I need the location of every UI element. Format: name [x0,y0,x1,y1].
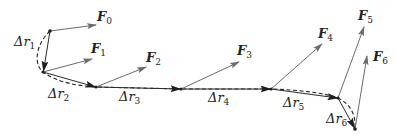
force-labels: F0 F1 F2 F3 F4 F5 F6 [90,8,388,67]
displacement-dr5 [271,89,338,98]
point-p3 [179,87,182,90]
force-f4 [271,44,322,89]
force-f5 [338,27,364,98]
force-f0 [50,25,96,31]
point-p1 [41,70,44,73]
force-f2 [96,67,146,87]
displacement-dr2 [43,72,96,87]
displacement-labels: Δr1 Δr2 Δr3 Δr4 Δr5 Δr6 [13,34,348,128]
label-dr5: Δr5 [282,95,305,112]
label-f1: F1 [90,41,106,58]
label-dr2: Δr2 [47,86,69,103]
force-f1 [43,59,92,72]
displacement-vectors [43,31,355,128]
path-points [41,29,356,131]
point-p2 [94,85,97,88]
curved-path [37,31,355,129]
point-p0 [48,29,52,33]
label-dr3: Δr3 [118,89,141,106]
label-f5: F5 [357,8,373,25]
label-dr4: Δr4 [207,90,230,107]
label-f0: F0 [96,9,112,26]
label-dr6: Δr6 [325,111,348,128]
point-p5 [336,96,339,99]
label-f6: F6 [372,49,388,66]
work-path-diagram: F0 F1 F2 F3 F4 F5 F6 Δr1 Δr2 Δr3 Δr4 Δr5… [0,0,396,137]
label-dr1: Δr1 [13,34,35,51]
displacement-dr3 [96,87,181,89]
force-f3 [181,62,239,89]
label-f3: F3 [236,43,252,60]
label-f4: F4 [317,26,333,43]
point-p6 [353,127,357,131]
label-f2: F2 [145,50,161,67]
point-p4 [269,87,272,90]
force-f6 [355,56,367,129]
